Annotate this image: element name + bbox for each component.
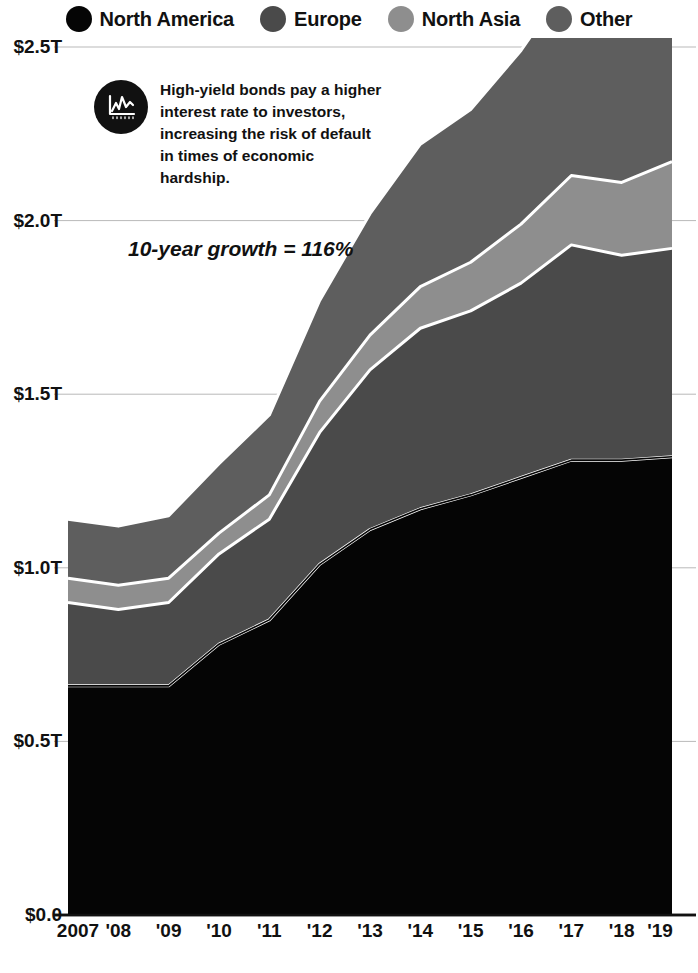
legend-label-other: Other [580,8,632,31]
y-tick-label: $0.5T [0,730,62,752]
x-axis-labels: 2007'08'09'10'11'12'13'14'15'16'17'18'19 [0,920,698,965]
x-tick-label: 2007 [57,920,99,942]
x-tick-label: '14 [408,920,434,942]
x-tick-label: '15 [458,920,484,942]
legend-item-other[interactable]: Other [546,6,632,32]
annotation-callout: High-yield bonds pay a higher interest r… [94,78,384,189]
x-tick-label: '16 [508,920,534,942]
legend-label-europe: Europe [294,8,362,31]
x-tick-label: '09 [156,920,182,942]
legend-item-europe[interactable]: Europe [260,6,362,32]
line-chart-icon [94,80,148,134]
annotation-text: High-yield bonds pay a higher interest r… [160,78,384,189]
growth-callout: 10-year growth = 116% [128,237,353,261]
x-tick-label: '08 [106,920,132,942]
legend-dot-north-asia-icon [388,6,414,32]
y-tick-label: $1.0T [0,557,62,579]
y-tick-label: $2.0T [0,210,62,232]
x-tick-label: '19 [647,920,673,942]
legend-label-north-asia: North Asia [422,8,520,31]
x-tick-label: '17 [559,920,585,942]
y-tick-label: $2.5T [0,36,62,58]
y-axis-labels: $2.5T$2.0T$1.5T$1.0T$0.5T$0.0 [0,38,62,973]
chart-root: North America Europe North Asia Other $2… [0,0,698,973]
legend-item-north-asia[interactable]: North Asia [388,6,520,32]
legend-dot-other-icon [546,6,572,32]
x-tick-label: '13 [357,920,383,942]
x-tick-label: '12 [307,920,333,942]
y-tick-label: $1.5T [0,383,62,405]
x-tick-label: '11 [257,920,282,942]
x-tick-label: '10 [206,920,232,942]
legend-item-north-america[interactable]: North America [66,6,234,32]
legend-dot-north-america-icon [66,6,92,32]
chart-legend: North America Europe North Asia Other [0,0,698,38]
x-tick-label: '18 [609,920,635,942]
legend-label-north-america: North America [100,8,234,31]
legend-dot-europe-icon [260,6,286,32]
